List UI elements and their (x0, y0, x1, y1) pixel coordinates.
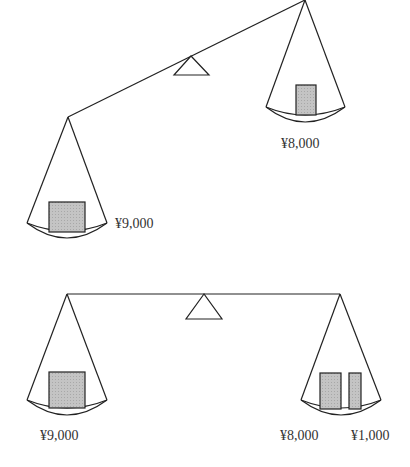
balanced-right-pan (301, 294, 381, 415)
tilted-beam (68, 0, 305, 117)
balance-diagram (0, 0, 410, 467)
weight-1000 (349, 373, 361, 409)
weight-8000 (320, 373, 341, 409)
balanced-fulcrum (186, 294, 222, 319)
balanced-left-pan (27, 294, 107, 415)
tilted-scale (27, 0, 345, 238)
label-top-right: ¥8,000 (281, 136, 320, 152)
tilted-right-pan (266, 0, 345, 122)
label-bottom-right-8000: ¥8,000 (280, 428, 319, 444)
balanced-scale (27, 294, 381, 415)
weight-8000 (296, 85, 316, 115)
label-top-left: ¥9,000 (115, 216, 154, 232)
weight-9000 (49, 202, 85, 232)
tilted-fulcrum (174, 56, 209, 75)
tilted-left-pan (27, 117, 107, 238)
label-bottom-right-1000: ¥1,000 (351, 428, 390, 444)
label-bottom-left: ¥9,000 (40, 428, 79, 444)
weight-9000 (49, 372, 85, 408)
